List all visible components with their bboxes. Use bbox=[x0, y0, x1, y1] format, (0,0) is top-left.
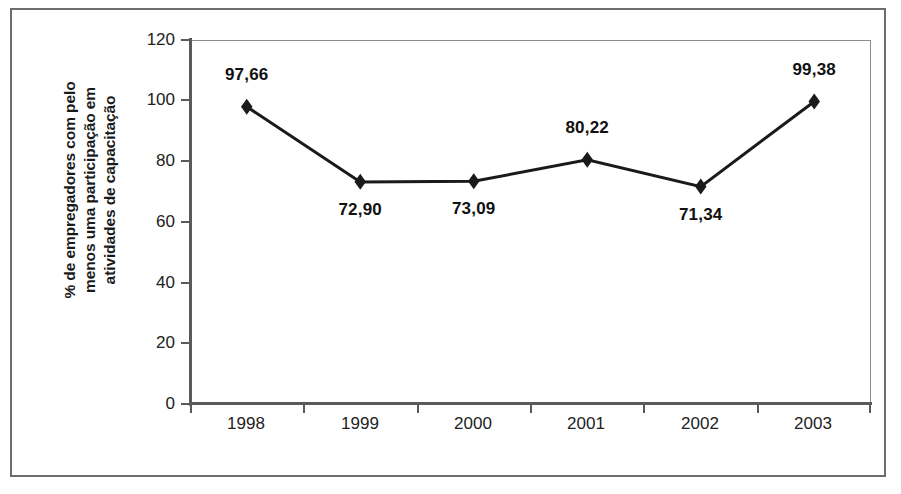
y-tick-mark-60 bbox=[181, 221, 190, 223]
x-axis-label-2003: 2003 bbox=[753, 414, 873, 434]
data-label-2002: 71,34 bbox=[641, 205, 761, 225]
y-tick-mark-100 bbox=[181, 99, 190, 101]
y-tick-label-60: 60 bbox=[105, 213, 175, 230]
x-tick-mark-1 bbox=[303, 403, 305, 413]
data-label-1999: 72,90 bbox=[300, 200, 420, 220]
x-tick-mark-4 bbox=[643, 403, 645, 413]
y-tick-mark-0 bbox=[181, 403, 190, 405]
plot-area bbox=[190, 40, 871, 404]
y-tick-mark-120 bbox=[181, 39, 190, 41]
x-tick-mark-6 bbox=[869, 403, 871, 413]
y-axis-title: % de empregadores com pelo menos uma par… bbox=[60, 0, 120, 385]
y-tick-label-100: 100 bbox=[105, 91, 175, 108]
data-label-2001: 80,22 bbox=[527, 118, 647, 138]
y-tick-label-20: 20 bbox=[105, 334, 175, 351]
x-tick-mark-5 bbox=[757, 403, 759, 413]
y-tick-mark-20 bbox=[181, 342, 190, 344]
y-tick-label-120: 120 bbox=[105, 31, 175, 48]
y-axis-title-line-1: % de empregadores com pelo bbox=[60, 0, 80, 385]
y-tick-label-40: 40 bbox=[105, 274, 175, 291]
y-axis-title-line-3: atividades de capacitação bbox=[100, 0, 120, 385]
x-axis-label-2002: 2002 bbox=[640, 414, 760, 434]
x-tick-mark-2 bbox=[417, 403, 419, 413]
data-label-1998: 97,66 bbox=[187, 65, 307, 85]
y-tick-label-80: 80 bbox=[105, 152, 175, 169]
data-label-2003: 99,38 bbox=[754, 60, 874, 80]
x-axis-label-1998: 1998 bbox=[186, 414, 306, 434]
y-tick-mark-80 bbox=[181, 160, 190, 162]
chart-screenshot: % de empregadores com pelo menos uma par… bbox=[0, 0, 901, 494]
x-axis-label-2001: 2001 bbox=[526, 414, 646, 434]
x-axis-label-1999: 1999 bbox=[300, 414, 420, 434]
y-tick-label-0: 0 bbox=[105, 395, 175, 412]
y-axis-title-line-2: menos uma participação em bbox=[80, 0, 100, 385]
x-tick-mark-0 bbox=[190, 403, 192, 413]
data-label-2000: 73,09 bbox=[414, 199, 534, 219]
x-tick-mark-3 bbox=[530, 403, 532, 413]
y-tick-mark-40 bbox=[181, 282, 190, 284]
x-axis-label-2000: 2000 bbox=[413, 414, 533, 434]
